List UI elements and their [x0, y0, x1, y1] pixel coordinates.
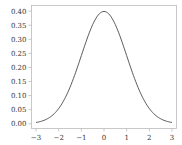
x-tick-label: 0 [102, 134, 106, 142]
x-axis: −3−2−10123 [31, 129, 174, 142]
y-tick-label: 0.30 [11, 36, 27, 44]
y-tick-label: 0.05 [11, 106, 27, 114]
x-tick-label: 1 [124, 134, 128, 142]
y-tick-label: 0.25 [11, 50, 27, 58]
y-axis: 0.000.050.100.150.200.250.300.350.40 [11, 8, 32, 129]
y-tick-label: 0.00 [11, 120, 27, 128]
chart: 0.000.050.100.150.200.250.300.350.40 −3−… [0, 0, 182, 145]
x-tick-label: 2 [147, 134, 151, 142]
x-tick-label: −3 [31, 134, 41, 142]
x-tick-label: 3 [170, 134, 174, 142]
plot-frame [32, 6, 177, 129]
y-tick-label: 0.35 [11, 22, 27, 30]
density-curve [36, 11, 172, 122]
y-tick-label: 0.10 [11, 92, 27, 100]
y-tick-label: 0.20 [11, 64, 27, 72]
y-tick-label: 0.40 [11, 8, 27, 16]
y-tick-label: 0.15 [11, 78, 27, 86]
x-tick-label: −1 [76, 134, 86, 142]
x-tick-label: −2 [54, 134, 64, 142]
